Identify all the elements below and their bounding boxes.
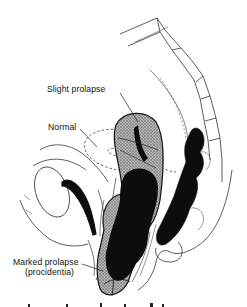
label-slight-prolapse: Slight prolapse	[47, 85, 105, 94]
label-marked-prolapse: Marked prolapse	[13, 258, 79, 267]
urethra-icon	[62, 180, 96, 235]
label-normal: Normal	[48, 123, 76, 132]
leader-normal	[80, 129, 97, 147]
rectum-icon	[156, 128, 210, 245]
cropped-caption-fragments	[28, 303, 164, 307]
uterus-marked-prolapse	[97, 169, 158, 296]
prolapse-diagram: Slight prolapse Normal Marked prolapse (…	[0, 0, 247, 307]
label-procidentia: (procidentia)	[25, 268, 74, 277]
